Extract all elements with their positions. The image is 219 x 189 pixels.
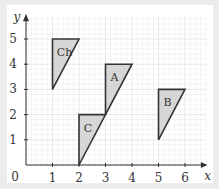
shape-label: C [84, 122, 92, 135]
x-tick-label: 2 [75, 171, 83, 185]
x-tick-label: 1 [49, 171, 57, 185]
y-tick-label: 3 [9, 82, 17, 96]
x-tick-label: 5 [155, 171, 163, 185]
coordinate-grid: ChACB123456123450xy [0, 0, 219, 189]
y-tick-label: 2 [9, 108, 17, 122]
y-axis-arrow-icon [23, 14, 29, 22]
y-tick-label: 4 [9, 57, 17, 71]
y-tick-label: 5 [9, 32, 17, 46]
x-axis-arrow-icon [201, 162, 208, 168]
origin-label: 0 [11, 170, 19, 184]
x-tick-label: 4 [128, 171, 136, 185]
shape-label: Ch [57, 46, 73, 59]
x-tick-label: 3 [102, 171, 110, 185]
x-axis-label: x [204, 169, 211, 183]
shape-label: A [110, 71, 120, 84]
x-tick-label: 6 [181, 171, 189, 185]
y-axis-label: y [13, 10, 21, 24]
shape-label: B [163, 96, 171, 109]
y-tick-label: 1 [9, 133, 17, 147]
